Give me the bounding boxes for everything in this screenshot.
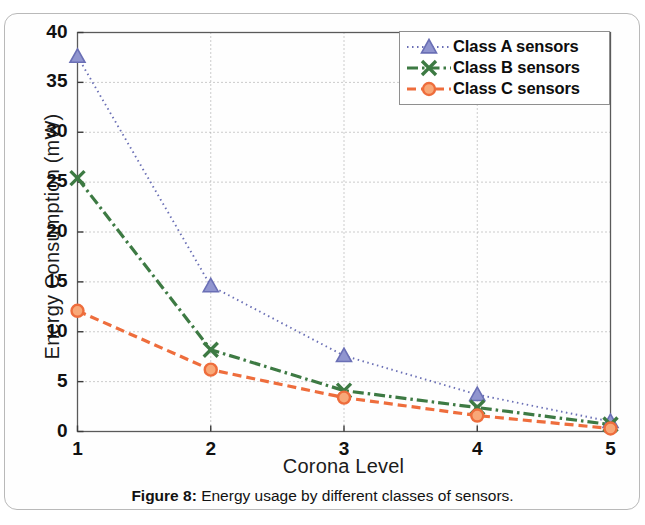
x-tick-label: 5 <box>596 438 626 460</box>
legend-item-a: Class A sensors <box>406 36 603 57</box>
series-3 <box>72 305 617 435</box>
figure-caption-text: Energy usage by different classes of sen… <box>197 487 514 504</box>
x-tick-label: 2 <box>196 438 226 460</box>
figure-caption-label: Figure 8: <box>131 487 196 504</box>
legend-marker-icon <box>406 37 452 57</box>
y-tick-label: 35 <box>28 70 68 92</box>
series-1 <box>70 49 618 427</box>
legend-label: Class B sensors <box>453 58 580 77</box>
energy-consumption-chart: Energy Consumption (mW) Corona Level 051… <box>0 0 645 525</box>
legend-item-c: Class C sensors <box>406 78 603 99</box>
x-tick-label: 3 <box>329 438 359 460</box>
series-line <box>78 311 611 429</box>
data-point-marker <box>422 39 437 52</box>
legend-marker-icon <box>406 58 452 78</box>
data-point-marker <box>337 348 352 361</box>
legend-label: Class A sensors <box>453 37 579 56</box>
y-tick-label: 10 <box>28 320 68 342</box>
x-tick-label: 4 <box>462 438 492 460</box>
data-point-marker <box>423 83 435 95</box>
data-point-marker <box>338 392 350 404</box>
legend-label: Class C sensors <box>453 79 580 98</box>
y-tick-label: 20 <box>28 220 68 242</box>
data-point-marker <box>470 387 485 400</box>
y-tick-label: 0 <box>28 420 68 442</box>
data-point-marker <box>205 364 217 376</box>
data-point-marker <box>72 305 84 317</box>
data-point-marker <box>605 423 617 435</box>
legend-marker-icon <box>406 79 452 99</box>
chart-legend: Class A sensorsClass B sensorsClass C se… <box>399 31 610 105</box>
figure-caption: Figure 8: Energy usage by different clas… <box>0 487 645 505</box>
data-point-marker <box>203 278 218 291</box>
y-tick-label: 30 <box>28 120 68 142</box>
x-tick-label: 1 <box>63 438 93 460</box>
y-tick-label: 15 <box>28 270 68 292</box>
legend-item-b: Class B sensors <box>406 57 603 78</box>
series-line <box>78 56 611 421</box>
data-point-marker <box>471 410 483 422</box>
y-tick-label: 5 <box>28 370 68 392</box>
y-tick-label: 40 <box>28 21 68 43</box>
data-point-marker <box>70 49 85 62</box>
y-tick-label: 25 <box>28 170 68 192</box>
